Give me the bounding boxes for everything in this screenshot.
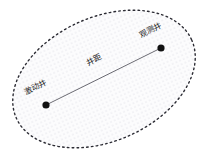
well-pair-diagram: 激动井 井距 观测井 <box>0 0 206 161</box>
reservoir-boundary-group <box>0 0 206 161</box>
diagram-canvas: 激动井 井距 观测井 <box>0 0 206 161</box>
observation-well-marker <box>157 44 164 51</box>
excitation-well-marker <box>42 101 49 108</box>
reservoir-fill <box>0 0 206 161</box>
